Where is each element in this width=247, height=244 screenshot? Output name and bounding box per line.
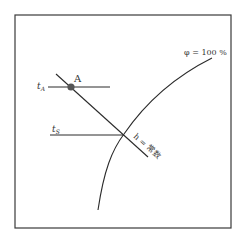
tA-label: tA xyxy=(37,81,46,92)
frame xyxy=(15,15,231,228)
psychrometric-diagram: A tA tS φ = 100 % h = 常数 xyxy=(0,0,247,244)
saturation-curve xyxy=(98,58,212,210)
saturation-curve-label: φ = 100 % xyxy=(184,48,227,57)
point-A-label: A xyxy=(73,73,82,84)
point-A xyxy=(67,83,74,90)
tS-label: tS xyxy=(52,124,60,135)
